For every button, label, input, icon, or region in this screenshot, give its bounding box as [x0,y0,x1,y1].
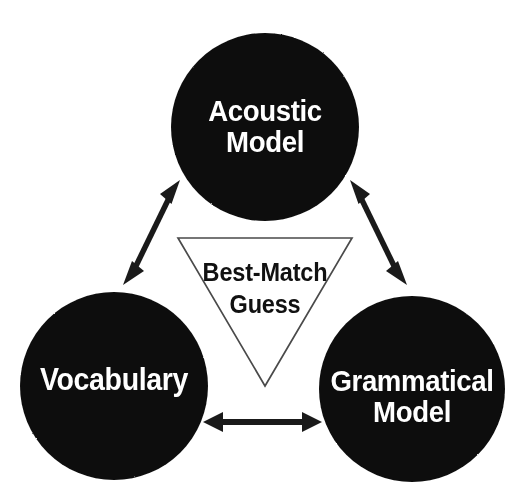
connector-vocabulary-grammatical-arrowhead-left [203,412,223,432]
connector-acoustic-vocabulary-shaft [134,196,170,270]
diagram-figure: I I I O [0,0,525,488]
connector-vocabulary-grammatical-arrowhead-right [302,412,322,432]
diagram-canvas [0,0,525,488]
connector-acoustic-vocabulary[interactable] [123,180,180,285]
connector-acoustic-grammatical[interactable] [350,180,407,285]
node-circle-acoustic-model[interactable] [171,33,359,221]
connector-acoustic-grammatical-shaft [360,196,396,270]
connector-vocabulary-grammatical[interactable] [203,412,322,432]
node-circle-grammatical-model[interactable] [319,296,505,482]
connector-acoustic-vocabulary-arrowhead-top [160,180,180,204]
connector-acoustic-grammatical-arrowhead-bottom [386,261,407,285]
connector-acoustic-grammatical-arrowhead-top [350,180,370,204]
node-circle-vocabulary[interactable] [20,292,208,480]
connector-acoustic-vocabulary-arrowhead-bottom [123,261,144,285]
